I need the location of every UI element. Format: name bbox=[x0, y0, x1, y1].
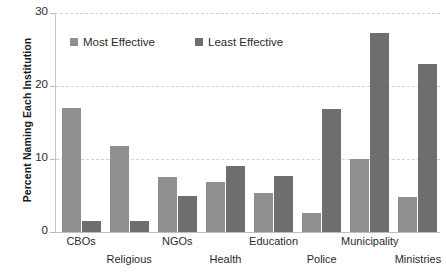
legend-label: Most Effective bbox=[83, 36, 155, 48]
x-axis-tick-label: Municipality bbox=[332, 235, 407, 247]
bar bbox=[82, 221, 101, 232]
bar bbox=[226, 166, 245, 232]
x-axis-tick-label: NGOs bbox=[140, 235, 215, 247]
x-axis-line bbox=[55, 232, 440, 233]
x-axis-tick-label: Health bbox=[188, 253, 263, 265]
x-axis-category-labels: CBOsReligiousNGOsHealthEducationPoliceMu… bbox=[55, 234, 440, 278]
y-axis-tick-label: 30 bbox=[18, 5, 48, 17]
y-axis-tick-label: 10 bbox=[18, 151, 48, 163]
bar bbox=[302, 213, 321, 232]
bar bbox=[370, 33, 389, 232]
legend-item-most-effective: Most Effective bbox=[70, 36, 155, 48]
x-axis-tick-label: Police bbox=[284, 253, 359, 265]
bar bbox=[130, 221, 149, 232]
bar bbox=[274, 176, 293, 232]
bar bbox=[62, 108, 81, 232]
bar bbox=[206, 182, 225, 232]
legend-item-least-effective: Least Effective bbox=[195, 36, 283, 48]
bar bbox=[350, 159, 369, 232]
legend-label: Least Effective bbox=[208, 36, 283, 48]
y-axis-tick-label: 20 bbox=[18, 78, 48, 90]
legend-swatch-icon bbox=[70, 38, 78, 46]
x-axis-tick-label: Religious bbox=[92, 253, 167, 265]
bar bbox=[418, 64, 437, 232]
bar-group bbox=[350, 13, 389, 232]
bar bbox=[158, 177, 177, 232]
bar bbox=[110, 146, 129, 232]
x-axis-tick-label: Education bbox=[236, 235, 311, 247]
bar-group bbox=[302, 13, 341, 232]
bar bbox=[178, 196, 197, 232]
bar bbox=[398, 197, 417, 232]
legend-swatch-icon bbox=[195, 38, 203, 46]
bar bbox=[322, 109, 341, 232]
x-axis-tick-label: Ministries bbox=[380, 253, 446, 265]
chart-legend: Most Effective Least Effective bbox=[70, 36, 283, 48]
x-axis-tick-label: CBOs bbox=[44, 235, 119, 247]
bar-group bbox=[398, 13, 437, 232]
bar bbox=[254, 193, 273, 232]
